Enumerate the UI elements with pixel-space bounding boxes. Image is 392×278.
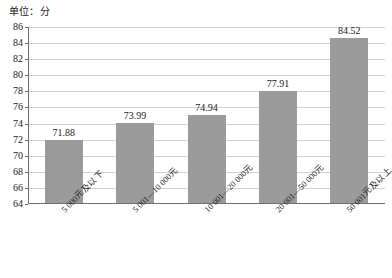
y-tick-label: 82 (13, 54, 23, 64)
y-tick-label: 66 (13, 183, 23, 193)
bar-value-label: 71.88 (52, 128, 75, 138)
y-tick-label: 78 (13, 86, 23, 96)
y-tick-mark (25, 188, 28, 189)
y-tick-mark (25, 124, 28, 125)
y-tick-label: 84 (13, 38, 23, 48)
y-tick-label: 72 (13, 135, 23, 145)
y-tick-mark (25, 107, 28, 108)
unit-caption: 单位：分 (9, 3, 50, 18)
y-tick-mark (25, 204, 28, 205)
y-tick-label: 76 (13, 102, 23, 112)
y-tick-mark (25, 172, 28, 173)
y-tick-mark (25, 59, 28, 60)
bar-chart: 单位：分 646668707274767880828486 71.8873.99… (0, 0, 392, 278)
bar-value-label: 84.52 (338, 26, 361, 36)
bar-value-label: 77.91 (267, 79, 290, 89)
gridline (29, 27, 385, 28)
bar-group[interactable]: 77.91 (259, 91, 297, 203)
y-tick-label: 70 (13, 151, 23, 161)
y-tick-label: 68 (13, 167, 23, 177)
y-tick-label: 86 (13, 22, 23, 32)
bar[interactable] (330, 38, 368, 203)
y-axis-line (28, 27, 29, 204)
plot-area: 646668707274767880828486 71.8873.9974.94… (28, 27, 385, 204)
y-tick-mark (25, 156, 28, 157)
y-tick-mark (25, 91, 28, 92)
y-tick-mark (25, 27, 28, 28)
y-tick-label: 64 (13, 199, 23, 209)
y-tick-mark (25, 140, 28, 141)
bar-value-label: 73.99 (124, 111, 147, 121)
y-tick-mark (25, 43, 28, 44)
bar-group[interactable]: 84.52 (330, 38, 368, 203)
y-tick-label: 74 (13, 119, 23, 129)
bar-value-label: 74.94 (195, 103, 218, 113)
y-tick-mark (25, 75, 28, 76)
bar[interactable] (259, 91, 297, 203)
y-tick-label: 80 (13, 70, 23, 80)
